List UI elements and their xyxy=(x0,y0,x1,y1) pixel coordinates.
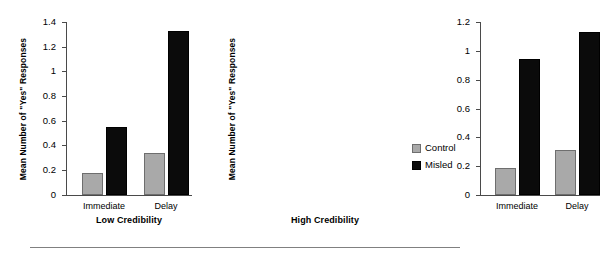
y-ticklabel-low-7: 1.4 xyxy=(43,17,56,27)
bar-high-immediate-control xyxy=(495,168,516,195)
bar-low-delay-misled xyxy=(168,31,189,195)
misled-swatch-icon xyxy=(412,161,421,170)
x-axis-line-low xyxy=(66,195,192,196)
y-ticklabel-low-4: 0.8 xyxy=(43,91,56,101)
y-ticklabel-low-0: 0 xyxy=(51,190,56,200)
y-tick-high-0: 0 xyxy=(476,195,481,196)
panel-high-credibility: Mean Number of "Yes" Responses 0 0.2 0.4… xyxy=(215,0,400,235)
y-tick-high-5: 1 xyxy=(476,51,481,52)
y-tick-low-4: 0.8 xyxy=(62,96,67,97)
y-ticklabel-high-3: 0.6 xyxy=(457,104,470,114)
y-axis-title-low: Mean Number of "Yes" Responses xyxy=(18,22,28,196)
y-tick-low-5: 1 xyxy=(62,71,67,72)
y-ticklabel-high-6: 1.2 xyxy=(457,17,470,27)
panel-low-credibility: Mean Number of "Yes" Responses 0 0.2 0.4… xyxy=(0,0,215,235)
y-tick-low-0: 0 xyxy=(62,195,67,196)
x-ticklabel-low-delay: Delay xyxy=(154,201,177,211)
bar-high-delay-misled xyxy=(579,32,600,195)
bar-high-delay-control xyxy=(555,150,576,195)
plot-area-high: 0 0.2 0.4 0.6 0.8 1 1.2 xyxy=(480,22,600,196)
y-tick-low-6: 1.2 xyxy=(62,47,67,48)
y-ticklabel-low-6: 1.2 xyxy=(43,42,56,52)
x-axis-line-high xyxy=(480,195,600,196)
y-tick-high-1: 0.2 xyxy=(476,166,481,167)
legend: Control Misled xyxy=(412,141,474,175)
y-tick-low-2: 0.4 xyxy=(62,145,67,146)
y-tick-low-1: 0.2 xyxy=(62,170,67,171)
x-ticklabel-high-immediate: Immediate xyxy=(496,201,538,211)
y-tick-high-6: 1.2 xyxy=(476,22,481,23)
bar-low-immediate-control xyxy=(82,173,103,195)
legend-label-misled: Misled xyxy=(425,160,452,170)
y-tick-high-2: 0.4 xyxy=(476,137,481,138)
x-ticklabel-high-delay: Delay xyxy=(565,201,588,211)
y-ticklabel-low-3: 0.6 xyxy=(43,116,56,126)
y-tick-low-7: 1.4 xyxy=(62,22,67,23)
legend-label-control: Control xyxy=(425,143,456,153)
bar-high-immediate-misled xyxy=(519,59,540,195)
panel-title-low-credibility: Low Credibility xyxy=(96,215,162,225)
legend-item-misled: Misled xyxy=(412,158,474,172)
y-tick-low-3: 0.6 xyxy=(62,121,67,122)
control-swatch-icon xyxy=(412,144,421,153)
y-tick-high-3: 0.6 xyxy=(476,109,481,110)
bar-low-immediate-misled xyxy=(106,127,127,195)
y-ticklabel-high-5: 1 xyxy=(465,46,470,56)
y-axis-title-high: Mean Number of "Yes" Responses xyxy=(227,22,237,196)
footer-divider xyxy=(30,247,460,248)
y-ticklabel-low-2: 0.4 xyxy=(43,140,56,150)
panel-title-high-credibility: High Credibility xyxy=(291,215,359,225)
y-ticklabel-low-5: 1 xyxy=(51,66,56,76)
y-ticklabel-high-4: 0.8 xyxy=(457,75,470,85)
y-ticklabel-low-1: 0.2 xyxy=(43,165,56,175)
y-ticklabel-high-0: 0 xyxy=(465,190,470,200)
legend-item-control: Control xyxy=(412,141,474,155)
bar-low-delay-control xyxy=(144,153,165,195)
y-tick-high-4: 0.8 xyxy=(476,80,481,81)
plot-area-low: 0 0.2 0.4 0.6 0.8 1 1.2 1.4 xyxy=(66,22,192,196)
x-ticklabel-low-immediate: Immediate xyxy=(83,201,125,211)
